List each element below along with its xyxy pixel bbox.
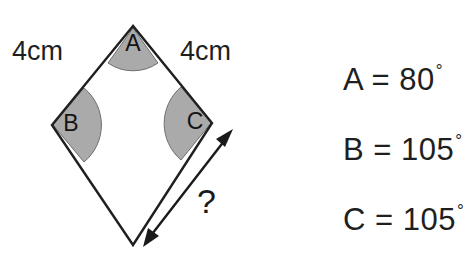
vertex-label-b: B <box>58 110 84 137</box>
vertex-label-a: A <box>120 30 146 57</box>
angle-equation-a: A = 80° <box>343 36 473 106</box>
degree-symbol-a: ° <box>436 61 443 80</box>
degree-symbol-b: ° <box>455 131 462 150</box>
angle-equation-c: C = 105° <box>343 176 473 246</box>
angle-equation-c-text: C = 105 <box>343 202 456 237</box>
geometry-figure: A B C 4cm 4cm ? A = 80° B = 105° C = 105… <box>0 0 475 253</box>
measure-arrow-head-lower <box>143 228 159 247</box>
angle-equation-list: A = 80° B = 105° C = 105° <box>343 36 473 246</box>
measure-arrow-head-upper <box>216 129 233 147</box>
degree-symbol-c: ° <box>457 201 464 220</box>
unknown-side-label: ? <box>197 182 216 221</box>
side-label-right: 4cm <box>180 36 231 67</box>
side-label-left: 4cm <box>12 36 63 67</box>
angle-equation-b-text: B = 105 <box>343 132 454 167</box>
vertex-label-c: C <box>182 108 208 135</box>
angle-equation-a-text: A = 80 <box>343 62 435 97</box>
angle-equation-b: B = 105° <box>343 106 473 176</box>
